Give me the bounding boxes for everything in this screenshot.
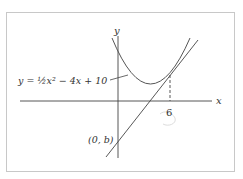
y-axis-label: y [114,26,120,36]
x-axis-label: x [216,96,222,106]
tangent-line [106,40,198,157]
equation-label: y = ½x² − 4x + 10 [18,76,107,86]
diagram-canvas [0,0,243,179]
label-pointer-arrow [110,75,128,80]
intercept-label: (0, b) [88,135,114,145]
parabola-curve [112,38,190,84]
x-tick-label: 6 [166,108,172,118]
